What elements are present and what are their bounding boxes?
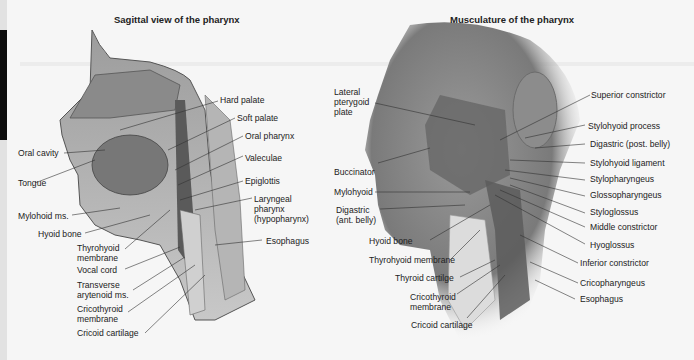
label-transverse-1: Transverse: [77, 280, 120, 290]
label-mylohyoid-right: Mylohyoid: [334, 187, 373, 197]
label-cricoid-left: Cricoid cartilage: [77, 328, 139, 338]
label-lateral-pterygoid-1: Lateral: [334, 87, 360, 97]
left-panel-title: Sagittal view of the pharynx: [114, 14, 240, 25]
label-thyrohyoid-2: membrane: [77, 253, 118, 263]
label-stylopharyngeus: Stylopharyngeus: [590, 174, 654, 184]
right-panel-title: Musculature of the pharynx: [450, 14, 574, 25]
label-mylohoid: Mylohoid ms.: [18, 211, 69, 221]
label-glossopharyngeus: Glossopharyngeus: [590, 190, 662, 200]
label-laryngeal-pharynx-3: (hypopharynx): [254, 214, 309, 224]
label-valeculae: Valeculae: [245, 153, 282, 163]
label-inferior-constrictor: Inferior constrictor: [580, 258, 649, 268]
label-cricothyroid-right-2: membrane: [410, 302, 451, 312]
label-digastric-ant-2: (ant. belly): [336, 215, 376, 225]
label-esophagus-left: Esophagus: [266, 236, 309, 246]
label-laryngeal-pharynx-1: Laryngeal: [254, 194, 292, 204]
label-stylohyoid-ligament: Stylohyoid ligament: [590, 158, 665, 168]
label-stylohyoid-process: Stylohyoid process: [588, 121, 660, 131]
musculature-illustration: [365, 22, 580, 340]
label-hyoglossus: Hyoglossus: [590, 240, 634, 250]
label-cricothyroid-left-2: membrane: [77, 314, 118, 324]
label-hyoid-left: Hyoid bone: [38, 229, 81, 239]
label-oral-cavity: Oral cavity: [18, 148, 59, 158]
label-cricopharyngeus: Cricopharyngeus: [580, 278, 645, 288]
label-middle-constrictor: Middle constrictor: [590, 222, 657, 232]
label-cricoid-right: Cricoid cartilage: [411, 320, 473, 330]
label-superior-constrictor: Superior constrictor: [591, 90, 666, 100]
label-cricothyroid-left-1: Cricothyroid: [77, 304, 123, 314]
label-epiglottis: Epiglottis: [245, 176, 280, 186]
label-lateral-pterygoid-3: plate: [334, 107, 353, 117]
label-digastric-ant-1: Digastric: [336, 205, 369, 215]
label-laryngeal-pharynx-2: pharynx: [254, 204, 285, 214]
label-soft-palate: Soft palate: [237, 113, 278, 123]
label-cricothyroid-right-1: Cricothyroid: [410, 292, 456, 302]
label-tongue: Tongue: [18, 178, 46, 188]
label-lateral-pterygoid-2: pterygoid: [334, 97, 369, 107]
label-transverse-2: arytenoid ms.: [77, 290, 129, 300]
label-thyroid-cartilage: Thyroid cartilge: [395, 273, 454, 283]
label-hyoid-right: Hyoid bone: [369, 236, 412, 246]
sagittal-illustration: [60, 30, 255, 320]
label-vocal-cord: Vocal cord: [77, 265, 117, 275]
label-hard-palate: Hard palate: [220, 95, 264, 105]
label-buccinator: Buccinator: [334, 167, 375, 177]
label-esophagus-right: Esophagus: [580, 294, 623, 304]
label-thyrohyoid-1: Thyrohyoid: [77, 243, 120, 253]
label-oral-pharynx: Oral pharynx: [245, 131, 294, 141]
label-digastric-post: Digastric (post. belly): [590, 139, 670, 149]
label-thyrohyoid-membrane-right: Thyrohyoid membrane: [369, 255, 455, 265]
label-styloglossus: Styloglossus: [590, 207, 638, 217]
